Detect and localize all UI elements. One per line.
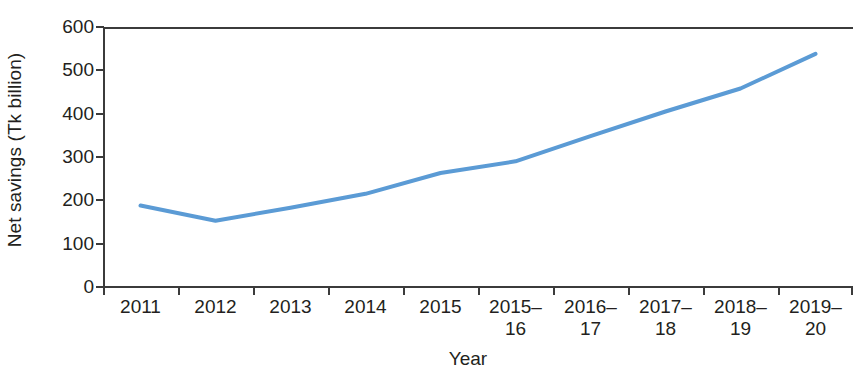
plot-area	[103, 27, 853, 287]
y-axis-tick-labels: 0100200300400500600	[30, 0, 94, 300]
y-axis-title: Net savings (Tk billion)	[0, 0, 30, 300]
y-tick-label: 0	[30, 277, 94, 296]
y-tick-mark	[96, 243, 104, 245]
x-tick-mark	[403, 286, 405, 295]
x-tick-mark	[103, 286, 105, 295]
y-tick-mark	[96, 199, 104, 201]
x-tick-label: 2017– 18	[628, 296, 703, 340]
x-tick-label: 2015	[403, 296, 478, 318]
x-tick-label: 2011	[103, 296, 178, 318]
x-tick-label: 2012	[178, 296, 253, 318]
x-tick-mark	[628, 286, 630, 295]
x-tick-label: 2016– 17	[553, 296, 628, 340]
y-tick-mark	[96, 113, 104, 115]
x-tick-label: 2019– 20	[778, 296, 853, 340]
series-line-net-savings	[103, 27, 853, 287]
y-tick-mark	[96, 156, 104, 158]
x-tick-mark	[178, 286, 180, 295]
y-axis-title-text: Net savings (Tk billion)	[4, 53, 26, 248]
x-tick-mark	[553, 286, 555, 295]
x-tick-label: 2013	[253, 296, 328, 318]
y-tick-label: 200	[30, 190, 94, 209]
y-tick-label: 600	[30, 17, 94, 36]
x-axis-tick-labels: 201120122013201420152015– 162016– 172017…	[103, 296, 853, 342]
x-tick-label: 2014	[328, 296, 403, 318]
x-tick-mark	[253, 286, 255, 295]
y-tick-label: 300	[30, 147, 94, 166]
x-tick-mark	[703, 286, 705, 295]
x-tick-mark	[778, 286, 780, 295]
x-tick-mark	[328, 286, 330, 295]
net-savings-line-chart: Net savings (Tk billion) 010020030040050…	[0, 0, 853, 369]
x-axis-title: Year	[413, 348, 523, 369]
x-tick-mark	[478, 286, 480, 295]
y-tick-label: 100	[30, 234, 94, 253]
y-tick-mark	[96, 26, 104, 28]
y-tick-label: 500	[30, 60, 94, 79]
y-tick-mark	[96, 69, 104, 71]
x-tick-label: 2015– 16	[478, 296, 553, 340]
y-tick-label: 400	[30, 104, 94, 123]
x-tick-label: 2018– 19	[703, 296, 778, 340]
